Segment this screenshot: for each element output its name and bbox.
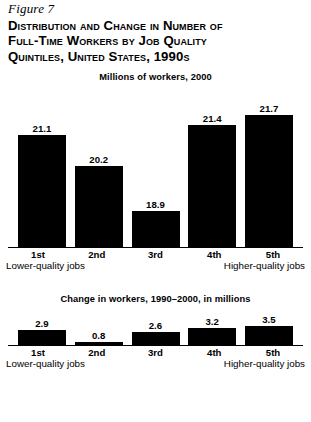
figure-number: Figure 7 [4,0,307,16]
chart-two-subtitle: Change in workers, 1990–2000, in million… [4,294,307,305]
figure-title-line-1: Distribution and Change in Number of [8,18,307,33]
bar-column: 20.2 [75,88,123,248]
x-tick-label: 2nd [73,347,121,358]
x-tick-label: 5th [249,347,297,358]
bar-value-label: 21.7 [259,103,278,114]
bar-value-label: 21.4 [203,113,222,124]
chart-two-tick-labels: 1st2nd3rd4th5th [4,347,307,358]
chart-one-right-end-label: Higher-quality jobs [224,260,305,272]
chart-two-right-end-label: Higher-quality jobs [224,358,305,370]
bar-value-label: 21.1 [32,123,51,134]
bar-column: 3.5 [245,312,293,346]
bar-column: 21.4 [188,88,236,248]
figure-container: Figure 7 Distribution and Change in Numb… [0,0,311,422]
x-tick-label: 4th [190,249,238,260]
x-tick-label: 1st [14,347,62,358]
bar-value-label: 0.8 [92,330,106,341]
x-tick-label: 2nd [73,249,121,260]
chart-two-axis [8,345,303,347]
bar-column: 0.8 [75,312,123,346]
x-tick-label: 3rd [132,347,180,358]
x-tick-label: 4th [190,347,238,358]
bar-column: 3.2 [188,312,236,346]
chart-two-axis-ends: Lower-quality jobs Higher-quality jobs [4,358,307,370]
x-tick-label: 3rd [132,249,180,260]
bar-column: 2.6 [132,312,180,346]
bar-rect [132,211,180,249]
chart-one-subtitle: Millions of workers, 2000 [4,72,307,83]
bar-rect [18,135,66,248]
chart-one-tick-labels: 1st2nd3rd4th5th [4,249,307,260]
bar-rect [75,166,123,248]
bar-rect [245,326,293,346]
chart-change-1990-2000: Change in workers, 1990–2000, in million… [4,294,307,370]
bar-value-label: 2.6 [149,320,163,331]
bar-rect [188,125,236,248]
chart-one-axis [8,247,303,249]
bar-rect [188,328,236,346]
bar-value-label: 3.5 [262,314,276,325]
bar-column: 2.9 [18,312,66,346]
figure-title: Distribution and Change in Number of Ful… [4,16,307,64]
bar-value-label: 2.9 [35,318,49,329]
figure-title-line-2: Full-Time Workers by Job Quality [8,33,307,48]
chart-one-axis-ends: Lower-quality jobs Higher-quality jobs [4,260,307,272]
x-tick-label: 5th [249,249,297,260]
bar-column: 21.7 [245,88,293,248]
bar-column: 18.9 [132,88,180,248]
chart-one-plot: 21.120.218.921.421.7 [8,88,303,248]
figure-title-line-3: Quintiles, United States, 1990s [8,49,307,64]
bar-value-label: 18.9 [146,199,165,210]
figure-footnote [0,415,311,422]
chart-workers-2000: Millions of workers, 2000 21.120.218.921… [4,72,307,272]
chart-one-bars: 21.120.218.921.421.7 [8,88,303,248]
chart-two-plot: 2.90.82.63.23.5 [8,312,303,346]
bar-value-label: 3.2 [205,316,219,327]
chart-one-left-end-label: Lower-quality jobs [6,260,85,272]
x-tick-label: 1st [14,249,62,260]
chart-two-bars: 2.90.82.63.23.5 [8,312,303,346]
chart-two-left-end-label: Lower-quality jobs [6,358,85,370]
bar-rect [245,115,293,248]
bar-value-label: 20.2 [89,154,108,165]
bar-column: 21.1 [18,88,66,248]
